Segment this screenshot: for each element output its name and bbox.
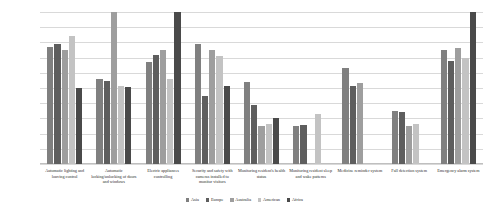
bar <box>202 96 208 164</box>
bar <box>399 112 405 164</box>
bar <box>413 124 419 164</box>
bar-groups <box>40 12 483 164</box>
x-axis-category-labels: Automatic lighting and louving controlAu… <box>40 168 483 185</box>
plot-area <box>40 12 483 164</box>
bar <box>300 125 306 164</box>
bar-group <box>286 12 335 164</box>
x-axis-category-label: Monitoring resident's health status <box>237 168 286 185</box>
legend-swatch-icon <box>287 198 290 201</box>
legend-swatch-icon <box>230 198 233 201</box>
bar <box>62 50 68 164</box>
bar <box>357 83 363 164</box>
legend-label: American <box>263 198 280 202</box>
legend-swatch-icon <box>186 198 189 201</box>
bar-group <box>40 12 89 164</box>
bar <box>96 79 102 164</box>
bar-group <box>335 12 384 164</box>
bar <box>293 126 299 164</box>
legend-label: Asia <box>191 198 199 202</box>
bar <box>406 126 412 164</box>
bar-group <box>188 12 237 164</box>
legend-item[interactable]: Asia <box>186 198 199 202</box>
bar <box>392 111 398 164</box>
grouped-bar-chart: 100.0%90.0%80.0%70.0%60.0%50.0%40.0%30.0… <box>0 0 489 217</box>
legend-item[interactable]: American <box>258 198 280 202</box>
bar <box>224 86 230 164</box>
bar <box>273 118 279 164</box>
legend-item[interactable]: Australia <box>230 198 251 202</box>
bar <box>266 124 272 164</box>
bar <box>167 79 173 164</box>
bar <box>104 81 110 164</box>
x-axis-category-label: Security and safety with cameras install… <box>188 168 237 185</box>
bar-group <box>385 12 434 164</box>
x-axis-category-label: Fall detection system <box>385 168 434 185</box>
bar-group <box>434 12 483 164</box>
chart-legend: AsiaEuropeAustraliaAmericanAfrica <box>0 198 489 202</box>
bar <box>315 114 321 164</box>
bar <box>125 87 131 164</box>
x-axis-category-label: Electric appliances controlling <box>138 168 187 185</box>
legend-label: Africa <box>292 198 303 202</box>
bar <box>153 55 159 164</box>
bar-group <box>89 12 138 164</box>
x-axis-category-label: Medicine reminder system <box>335 168 384 185</box>
bar <box>470 12 476 164</box>
legend-item[interactable]: Europe <box>206 198 223 202</box>
bar <box>111 12 117 164</box>
bar <box>195 44 201 164</box>
bar <box>342 68 348 164</box>
bar-group <box>237 12 286 164</box>
legend-swatch-icon <box>206 198 209 201</box>
bar <box>118 86 124 164</box>
x-axis-category-label: Automatic lighting and louving control <box>40 168 89 185</box>
x-axis-category-label: Monitoring resident sleep and wake patte… <box>286 168 335 185</box>
gridline <box>40 164 483 165</box>
bar <box>209 50 215 164</box>
bar <box>455 48 461 164</box>
legend-label: Europe <box>211 198 223 202</box>
bar <box>244 82 250 164</box>
x-axis-category-label: Emergency alarm system <box>434 168 483 185</box>
bar <box>350 86 356 164</box>
bar <box>251 105 257 164</box>
legend-item[interactable]: Africa <box>287 198 303 202</box>
bar <box>174 12 180 164</box>
bar <box>462 58 468 164</box>
bar <box>69 36 75 164</box>
bar <box>146 62 152 164</box>
bar <box>441 50 447 164</box>
bar <box>76 88 82 164</box>
legend-swatch-icon <box>258 198 261 201</box>
bar <box>448 61 454 164</box>
bar <box>216 56 222 164</box>
x-axis-category-label: Automatic locking/unlocking of doors and… <box>89 168 138 185</box>
bar <box>47 47 53 164</box>
bar <box>54 44 60 164</box>
bar <box>258 126 264 164</box>
bar-group <box>138 12 187 164</box>
bar <box>160 50 166 164</box>
legend-label: Australia <box>235 198 251 202</box>
